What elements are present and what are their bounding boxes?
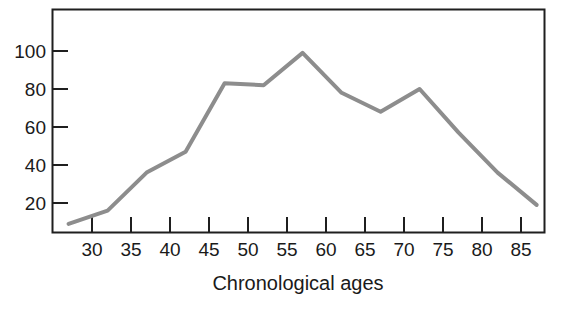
x-tick-label-55: 55 <box>276 239 297 260</box>
y-axis-tick-labels: 100 80 60 40 20 <box>14 41 46 214</box>
x-tick-label-60: 60 <box>315 239 336 260</box>
x-tick-label-70: 70 <box>393 239 414 260</box>
x-tick-label-80: 80 <box>471 239 492 260</box>
chart-figure: 100 80 60 40 20 30 35 40 45 50 <box>0 0 570 315</box>
x-axis-tick-labels: 30 35 40 45 50 55 60 65 70 75 80 85 <box>81 239 531 260</box>
line-chart-canvas: 100 80 60 40 20 30 35 40 45 50 <box>0 0 570 315</box>
x-axis-title: Chronological ages <box>212 272 383 294</box>
x-tick-label-45: 45 <box>198 239 219 260</box>
plot-frame <box>53 10 545 233</box>
x-tick-label-65: 65 <box>354 239 375 260</box>
y-tick-label-100: 100 <box>14 41 46 62</box>
y-tick-label-80: 80 <box>25 79 46 100</box>
x-tick-label-30: 30 <box>81 239 102 260</box>
y-tick-label-60: 60 <box>25 117 46 138</box>
x-tick-label-85: 85 <box>510 239 531 260</box>
x-tick-label-35: 35 <box>120 239 141 260</box>
x-tick-label-40: 40 <box>159 239 180 260</box>
y-tick-label-40: 40 <box>25 155 46 176</box>
x-tick-label-50: 50 <box>237 239 258 260</box>
x-tick-label-75: 75 <box>432 239 453 260</box>
y-tick-label-20: 20 <box>25 193 46 214</box>
